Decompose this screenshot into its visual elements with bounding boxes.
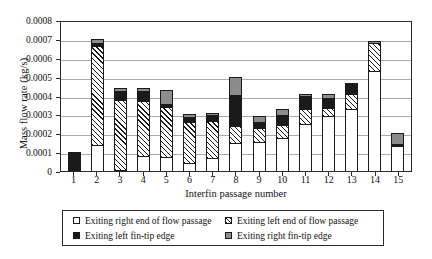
y-tick-label: 0.0003 — [26, 110, 52, 120]
bar-segment — [206, 158, 219, 171]
bar-segment — [229, 77, 242, 95]
bar-2[interactable] — [91, 39, 104, 171]
y-tick-label: 0 — [47, 167, 52, 177]
bar-segment — [160, 157, 173, 171]
bar-segment — [229, 143, 242, 171]
bar-segment — [276, 125, 289, 138]
black-square-icon — [73, 232, 80, 239]
bar-segment — [253, 128, 266, 142]
bar-3[interactable] — [114, 88, 127, 171]
bar-14[interactable] — [368, 41, 381, 171]
bar-10[interactable] — [276, 109, 289, 171]
bar-segment — [299, 109, 312, 124]
bar-12[interactable] — [322, 94, 335, 171]
bar-13[interactable] — [345, 83, 358, 171]
bar-8[interactable] — [229, 77, 242, 171]
bar-4[interactable] — [137, 88, 150, 171]
y-tick-label: 0.0004 — [26, 92, 52, 102]
y-axis-tick-labels: 00.00010.00020.00030.00040.00050.00060.0… — [0, 0, 56, 194]
chart-legend: Exiting right end of flow passageExiting… — [62, 210, 384, 246]
bar-15[interactable] — [391, 133, 404, 171]
white-square-icon — [73, 217, 80, 224]
bar-segment — [114, 91, 127, 99]
bar-segment — [276, 109, 289, 116]
bar-segment — [276, 115, 289, 124]
bar-6[interactable] — [183, 114, 196, 171]
bar-segment — [322, 108, 335, 116]
bar-segment — [276, 138, 289, 171]
bar-segment — [160, 107, 173, 157]
bar-segment — [322, 116, 335, 171]
bar-11[interactable] — [299, 94, 312, 171]
bar-segment — [229, 126, 242, 143]
legend-label: Exiting left fin-tip edge — [85, 231, 174, 241]
bar-segment — [206, 121, 219, 158]
bar-segment — [391, 133, 404, 143]
y-tick-label: 0.0001 — [26, 148, 52, 158]
bar-segment — [137, 156, 150, 171]
bar-segment — [183, 122, 196, 163]
bar-segment — [368, 43, 381, 71]
bar-segment — [253, 142, 266, 171]
bar-segment — [137, 91, 150, 101]
bar-segment — [91, 145, 104, 171]
hatched-square-icon — [225, 217, 232, 224]
gray-square-icon — [225, 232, 232, 239]
y-tick-label: 0.0005 — [26, 73, 52, 83]
y-tick-label: 0.0002 — [26, 129, 52, 139]
legend-item[interactable]: Exiting left fin-tip edge — [73, 231, 225, 241]
bar-segment — [183, 163, 196, 171]
x-axis-title: Interfin passage number — [60, 188, 412, 199]
y-tick-label: 0.0008 — [26, 16, 52, 26]
bar-9[interactable] — [253, 116, 266, 171]
bar-group — [61, 22, 411, 171]
bar-segment — [345, 94, 358, 109]
bar-segment — [299, 124, 312, 171]
bar-segment — [68, 152, 81, 171]
legend-item[interactable]: Exiting right end of flow passage — [73, 216, 225, 226]
bar-segment — [114, 170, 127, 172]
bar-segment — [345, 109, 358, 171]
bar-segment — [391, 146, 404, 171]
bar-7[interactable] — [206, 113, 219, 171]
bar-segment — [91, 46, 104, 144]
bar-segment — [114, 100, 127, 170]
legend-item[interactable]: Exiting left end of flow passage — [225, 216, 377, 226]
bar-segment — [322, 98, 335, 107]
chart-figure: Mass flow rate (kg/s) 00.00010.00020.000… — [0, 0, 432, 259]
plot-area — [60, 21, 412, 172]
legend-label: Exiting right end of flow passage — [85, 216, 211, 226]
y-tick-label: 0.0006 — [26, 54, 52, 64]
y-tick-label: 0.0007 — [26, 35, 52, 45]
bar-segment — [229, 95, 242, 126]
bar-segment — [368, 71, 381, 171]
legend-label: Exiting right fin-tip edge — [237, 231, 332, 241]
bar-segment — [345, 83, 358, 93]
bar-segment — [160, 90, 173, 104]
legend-label: Exiting left end of flow passage — [237, 216, 358, 226]
legend-item[interactable]: Exiting right fin-tip edge — [225, 231, 377, 241]
bar-segment — [137, 101, 150, 156]
bar-segment — [299, 96, 312, 108]
bar-1[interactable] — [68, 152, 81, 171]
bar-5[interactable] — [160, 90, 173, 171]
